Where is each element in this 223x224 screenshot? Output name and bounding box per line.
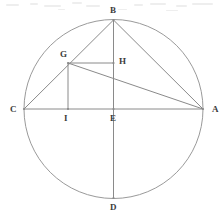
vertex-dot-h xyxy=(112,62,114,64)
vertex-dot-g xyxy=(67,62,69,64)
segment-GA xyxy=(68,63,203,109)
point-label-i: I xyxy=(64,114,68,123)
vertex-dot-e xyxy=(112,108,114,110)
point-label-b: B xyxy=(110,6,116,15)
vertex-dot-d xyxy=(112,197,114,199)
vertex-dot-c xyxy=(23,108,25,110)
point-label-d: D xyxy=(110,203,117,212)
segment-CB xyxy=(24,20,114,109)
point-label-a: A xyxy=(212,105,219,114)
point-label-h: H xyxy=(119,57,126,66)
point-label-c: C xyxy=(10,105,17,114)
segment-BA xyxy=(114,20,204,109)
vertex-dot-i xyxy=(67,108,69,110)
vertex-dot-a xyxy=(202,108,204,110)
geometry-figure: ABCDEGHI xyxy=(0,0,223,224)
geometry-canvas xyxy=(0,0,223,224)
point-label-e: E xyxy=(110,114,116,123)
point-label-g: G xyxy=(60,50,67,59)
vertex-dot-b xyxy=(112,19,114,21)
